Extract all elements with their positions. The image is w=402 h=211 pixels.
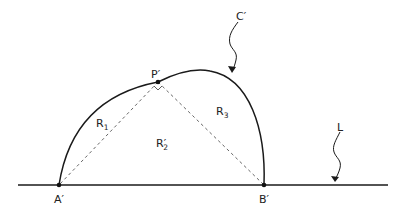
label-r1: R1: [96, 117, 109, 132]
label-c: C′: [236, 10, 247, 23]
arrowhead-curve-icon: [228, 66, 236, 73]
point-a: [57, 183, 62, 188]
right-angle-marker: [154, 86, 162, 90]
arrowhead-line-icon: [331, 176, 339, 182]
curve-c: [59, 70, 264, 185]
diagram-canvas: C′ L P′ A′ B′ R1 R′2 R3: [0, 0, 402, 211]
label-r3: R3: [216, 105, 229, 120]
label-r2: R′2: [156, 137, 168, 152]
point-b: [262, 183, 267, 188]
label-a: A′: [54, 193, 65, 206]
label-p: P′: [151, 68, 161, 81]
arrow-to-curve: [229, 22, 238, 71]
arrow-to-line: [333, 132, 340, 180]
label-l: L: [337, 121, 344, 134]
dashed-segment-pb: [158, 82, 264, 185]
dashed-segment-pa: [59, 82, 158, 185]
label-b: B′: [259, 193, 270, 206]
